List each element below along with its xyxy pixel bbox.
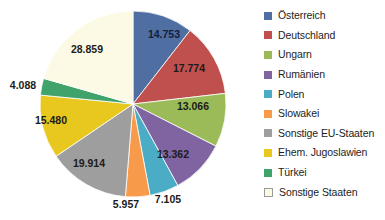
- pie-slice-value-label: 15.480: [35, 114, 67, 126]
- legend-item[interactable]: Polen: [264, 84, 385, 104]
- legend-item[interactable]: Deutschland: [264, 26, 385, 46]
- pie-slice-value-label: 4.088: [10, 79, 36, 91]
- legend-item[interactable]: Sonstige EU-Staaten: [264, 124, 385, 144]
- legend-swatch-icon: [264, 31, 272, 39]
- pie-chart-plot-area: 14.75317.77413.06613.3627.1055.95719.914…: [0, 0, 250, 220]
- pie-chart-figure: 14.75317.77413.06613.3627.1055.95719.914…: [0, 0, 385, 220]
- legend-item[interactable]: Türkei: [264, 163, 385, 183]
- legend-item[interactable]: Slowakei: [264, 104, 385, 124]
- legend-item[interactable]: Österreich: [264, 6, 385, 26]
- legend-swatch-icon: [264, 71, 272, 79]
- legend-swatch-icon: [264, 188, 273, 197]
- legend-swatch-icon: [264, 110, 272, 118]
- pie-slice-value-label: 13.066: [177, 100, 209, 112]
- legend-item[interactable]: Rumänien: [264, 65, 385, 85]
- legend-swatch-icon: [264, 51, 272, 59]
- legend-swatch-icon: [264, 12, 272, 20]
- pie-slice-value-label: 17.774: [173, 62, 205, 74]
- pie-slice-value-label: 13.362: [157, 148, 189, 160]
- legend-item-label: Türkei: [278, 167, 307, 178]
- pie-slice-value-label: 28.859: [71, 43, 103, 55]
- legend-swatch-icon: [264, 149, 272, 157]
- legend-item-label: Ungarn: [278, 49, 312, 60]
- legend-item-label: Österreich: [278, 10, 325, 21]
- legend-item[interactable]: Sonstige Staaten: [264, 182, 385, 202]
- legend-item-label: Rumänien: [278, 69, 325, 80]
- legend-swatch-icon: [264, 129, 272, 137]
- pie-chart-svg: 14.75317.77413.06613.3627.1055.95719.914…: [0, 0, 250, 220]
- legend-item-label: Deutschland: [278, 30, 335, 41]
- pie-slice-value-label: 7.105: [155, 193, 181, 205]
- pie-slice-value-label: 19.914: [73, 157, 105, 169]
- pie-slice-value-label: 14.753: [148, 28, 180, 40]
- legend-item[interactable]: Ungarn: [264, 45, 385, 65]
- legend-item-label: Sonstige Staaten: [279, 187, 357, 198]
- chart-legend: ÖsterreichDeutschlandUngarnRumänienPolen…: [264, 6, 385, 216]
- legend-item-label: Polen: [278, 89, 304, 100]
- legend-item[interactable]: Ehem. Jugoslawien: [264, 143, 385, 163]
- legend-swatch-icon: [264, 90, 272, 98]
- legend-swatch-icon: [264, 169, 272, 177]
- pie-slice-value-label: 5.957: [113, 198, 139, 210]
- legend-item-label: Ehem. Jugoslawien: [278, 147, 367, 158]
- legend-item-label: Sonstige EU-Staaten: [278, 128, 374, 139]
- legend-item-label: Slowakei: [278, 108, 319, 119]
